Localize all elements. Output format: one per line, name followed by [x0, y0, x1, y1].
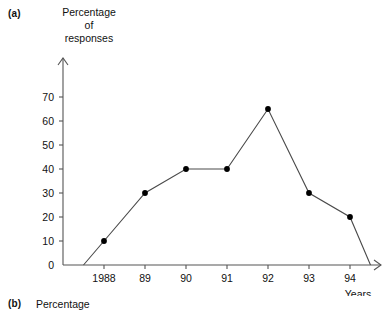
y-tick-label: 30	[42, 187, 54, 199]
data-point-marker	[101, 238, 107, 244]
data-point-marker	[183, 166, 189, 172]
y-tick-label: 40	[42, 163, 54, 175]
data-point-marker	[306, 190, 312, 196]
series-line	[84, 109, 371, 265]
series-markers	[101, 106, 353, 244]
y-tick-label: 70	[42, 91, 54, 103]
y-tick-label: 60	[42, 115, 54, 127]
x-axis-title: Years	[345, 288, 371, 296]
x-tick-label: 93	[303, 272, 315, 284]
x-tick-label: 89	[139, 272, 151, 284]
data-point-marker	[265, 106, 271, 112]
data-point-marker	[142, 190, 148, 196]
y-tick-label: 20	[42, 211, 54, 223]
x-tick-label: 91	[221, 272, 233, 284]
y-tick-label: 50	[42, 139, 54, 151]
panel-label-b: (b)	[8, 298, 21, 309]
y-axis-ticks: 010203040506070	[42, 91, 63, 271]
y-tick-label: 10	[42, 235, 54, 247]
panel-b-title: Percentage	[36, 298, 90, 310]
line-chart: 010203040506070 1988899091929394 Years	[0, 0, 392, 296]
x-axis-ticks: 1988899091929394	[92, 265, 356, 284]
x-tick-label: 1988	[92, 272, 116, 284]
data-point-marker	[347, 214, 353, 220]
data-point-marker	[224, 166, 230, 172]
x-tick-label: 92	[262, 272, 274, 284]
x-tick-label: 90	[180, 272, 192, 284]
x-tick-label: 94	[344, 272, 356, 284]
y-tick-label: 0	[48, 259, 54, 271]
